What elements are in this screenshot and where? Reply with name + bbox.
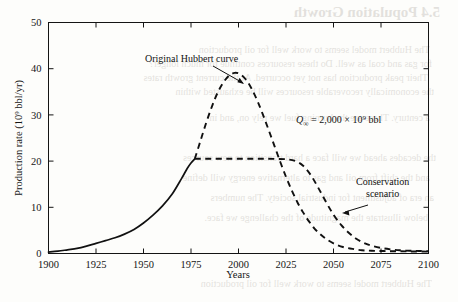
- figure-page: 5.4 Population Growth The Hubbert model …: [0, 0, 458, 302]
- conservation-scenario-label-line2: scenario: [366, 188, 399, 199]
- x-tick-label: 1975: [181, 259, 202, 270]
- y-tick-label: 20: [31, 156, 42, 167]
- x-tick-label: 2100: [418, 259, 439, 270]
- y-axis-title-prefix: Production rate (10: [13, 115, 25, 196]
- x-tick-label: 2025: [276, 259, 297, 270]
- y-axis-title: Production rate (109 bbl/yr): [13, 80, 26, 196]
- x-tick-label: 1900: [38, 259, 59, 270]
- y-tick-label: 0: [36, 248, 41, 259]
- svg-text:Production rate (109 bbl/yr): Production rate (109 bbl/yr): [13, 80, 26, 196]
- original-hubbert-curve-label: Original Hubbert curve: [145, 53, 239, 64]
- y-tick-label: 30: [31, 110, 42, 121]
- y-tick-label: 40: [31, 63, 42, 74]
- x-axis-ticks: [49, 23, 429, 254]
- y-axis-title-suffix: bbl/yr): [13, 80, 25, 112]
- q-unit: bbl: [368, 114, 381, 125]
- x-tick-label: 1925: [86, 259, 107, 270]
- y-tick-label: 50: [31, 17, 42, 28]
- data-series-group: [49, 73, 429, 252]
- original-hubbert-curve-annotation: Original Hubbert curve: [145, 53, 244, 84]
- conservation-scenario-label-line1: Conservation: [356, 176, 409, 187]
- y-axis-tick-labels: 01020304050: [31, 17, 42, 259]
- conservation-scenario-line: [195, 159, 429, 251]
- ultimate-resource-annotation: Q∞ = 2,000 × 109 bbl: [296, 114, 381, 128]
- x-tick-label: 2050: [323, 259, 344, 270]
- hubbert-production-chart: 190019251950197520002025205020752100 010…: [0, 0, 458, 302]
- x-tick-label: 1950: [133, 259, 154, 270]
- x-tick-label: 2000: [228, 259, 249, 270]
- historical-production-line: [49, 159, 195, 252]
- q-value: 2,000: [319, 114, 342, 125]
- y-tick-label: 10: [31, 202, 42, 213]
- x-axis-title: Years: [226, 269, 249, 280]
- x-axis-tick-labels: 190019251950197520002025205020752100: [38, 259, 439, 270]
- x-tick-label: 2075: [371, 259, 392, 270]
- plot-frame: [49, 23, 429, 254]
- original-hubbert-curve-line: [195, 73, 429, 252]
- q-base: 10: [352, 114, 362, 125]
- hubbert-leader-arrowhead: [237, 78, 244, 84]
- y-axis-ticks: [49, 23, 429, 254]
- conservation-scenario-annotation: Conservation scenario: [342, 176, 409, 215]
- plot-border: [49, 23, 429, 254]
